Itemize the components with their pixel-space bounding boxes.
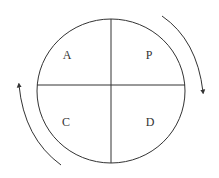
quadrant-label-a: A: [63, 48, 72, 62]
quadrant-label-p: P: [146, 48, 153, 62]
right-cycle-arrow-icon: [162, 16, 203, 92]
left-cycle-arrow-icon: [19, 85, 61, 165]
quadrant-label-c: C: [62, 115, 70, 129]
pdca-diagram: A P C D: [0, 0, 219, 178]
quadrant-label-d: D: [146, 115, 155, 129]
